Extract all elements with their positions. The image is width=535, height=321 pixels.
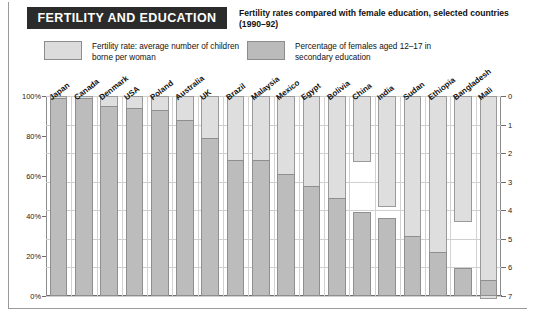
axis-tick-right: 6 <box>508 263 512 272</box>
page-title: FERTILITY AND EDUCATION <box>37 11 216 25</box>
axis-tick-right: 3 <box>508 177 512 186</box>
tick-mark-left <box>42 96 46 97</box>
bar-education <box>378 218 396 296</box>
axis-tick-left: 20% <box>26 252 41 261</box>
bar-education <box>429 252 447 296</box>
column-separator <box>299 96 300 296</box>
legend-label-education: Percentage of females aged 12–17 in seco… <box>295 42 455 63</box>
legend-swatch-fertility <box>44 41 82 60</box>
bar-education <box>353 212 371 296</box>
column-separator <box>450 96 451 296</box>
bar-education <box>454 268 472 296</box>
bar-education <box>328 198 346 296</box>
column-separator <box>400 96 401 296</box>
column-separator <box>122 96 123 296</box>
bar-education <box>50 98 68 296</box>
bar-fertility <box>378 96 396 207</box>
bar-education <box>227 160 245 296</box>
axis-tick-right: 7 <box>508 292 512 301</box>
tick-mark-right <box>501 239 506 240</box>
column-separator <box>248 96 249 296</box>
bar-education <box>404 236 422 296</box>
axis-tick-left: 60% <box>26 172 41 181</box>
tick-mark-left <box>42 216 46 217</box>
axis-tick-left: 0% <box>30 292 41 301</box>
column-separator <box>476 96 477 296</box>
tick-mark-right <box>501 182 506 183</box>
axis-tick-left: 40% <box>26 212 41 221</box>
bar-fertility <box>454 96 472 222</box>
bar-fertility <box>480 96 498 299</box>
column-separator <box>349 96 350 296</box>
bar-education <box>75 98 93 296</box>
axis-tick-left: 80% <box>26 132 41 141</box>
column-separator <box>223 96 224 296</box>
column-separator <box>274 96 275 296</box>
column-separator <box>324 96 325 296</box>
column-separator <box>71 96 72 296</box>
axis-tick-left: 100% <box>22 92 41 101</box>
bar-education <box>303 186 321 296</box>
legend-swatch-education <box>247 41 285 60</box>
tick-mark-right <box>501 153 506 154</box>
tick-mark-right <box>501 210 506 211</box>
bar-education <box>201 138 219 296</box>
axis-tick-right: 1 <box>508 120 512 129</box>
tick-mark-right <box>501 125 506 126</box>
axis-tick-right: 0 <box>508 92 512 101</box>
chart-subtitle: Fertility rates compared with female edu… <box>239 8 524 30</box>
tick-mark-right <box>501 296 506 297</box>
plot-area: 012345670%20%40%60%80%100% <box>46 96 501 296</box>
axis-tick-right: 5 <box>508 234 512 243</box>
axis-tick-right: 4 <box>508 206 512 215</box>
page-frame-bottom <box>8 308 527 309</box>
bar-education <box>151 110 169 296</box>
tick-mark-left <box>42 136 46 137</box>
chart-page: FERTILITY AND EDUCATION Fertility rates … <box>0 0 535 321</box>
bar-education <box>100 106 118 296</box>
column-separator <box>425 96 426 296</box>
column-separator <box>172 96 173 296</box>
bar-education <box>126 108 144 296</box>
column-separator <box>147 96 148 296</box>
tick-mark-right <box>501 267 506 268</box>
legend-label-fertility: Fertility rate: average number of childr… <box>92 42 242 63</box>
bar-education <box>277 174 295 296</box>
tick-mark-right <box>501 96 506 97</box>
bar-education <box>252 160 270 296</box>
column-separator <box>375 96 376 296</box>
column-separator <box>97 96 98 296</box>
tick-mark-left <box>42 176 46 177</box>
column-separator <box>198 96 199 296</box>
gridline-fertility <box>46 296 501 297</box>
axis-tick-right: 2 <box>508 149 512 158</box>
tick-mark-left <box>42 296 46 297</box>
bar-education <box>480 280 498 296</box>
bar-education <box>176 120 194 296</box>
page-title-banner: FERTILITY AND EDUCATION <box>27 7 227 29</box>
tick-mark-left <box>42 256 46 257</box>
bar-fertility <box>353 96 371 162</box>
